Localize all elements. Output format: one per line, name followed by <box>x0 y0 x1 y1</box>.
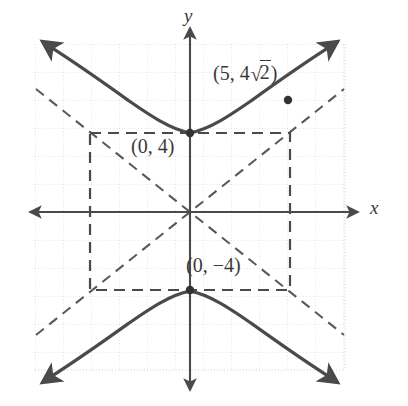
y-axis-label: y <box>184 6 192 25</box>
paren-close: ) <box>271 62 278 84</box>
graph-canvas <box>0 0 408 406</box>
point-vertex-positive <box>186 129 194 137</box>
point-label-5-4root2: (5, 4√2) <box>213 61 277 83</box>
vertex-negative-label: (0, −4) <box>186 255 241 275</box>
paren-open: ( <box>213 62 220 84</box>
vertex-positive-label: (0, 4) <box>131 136 174 156</box>
point-5-4root2 <box>284 96 292 104</box>
hyperbola-graph-figure: y x (5, 4√2) (0, 4) (0, −4) <box>0 0 408 406</box>
x-value-text: 5, <box>220 62 235 84</box>
radicand-value: 2 <box>260 60 271 82</box>
point-vertex-negative <box>186 286 194 294</box>
x-axis-label: x <box>370 198 378 217</box>
square-root-expression: √2 <box>250 61 271 83</box>
radical-coefficient: 4 <box>240 62 250 84</box>
